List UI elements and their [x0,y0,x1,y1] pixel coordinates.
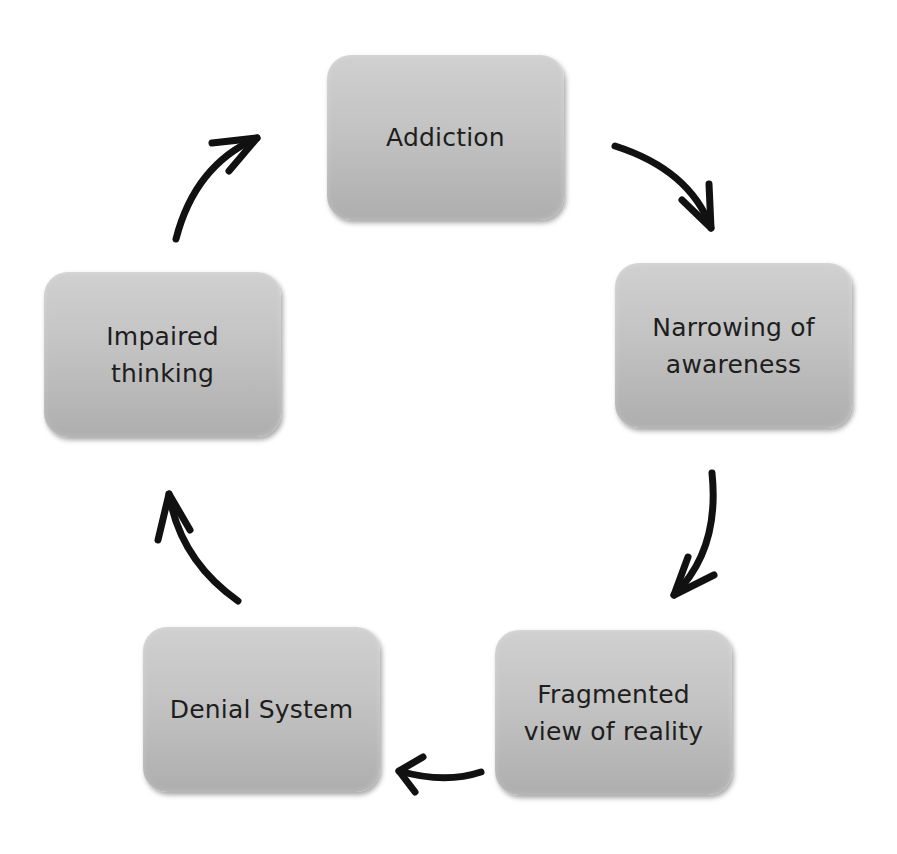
node-label: Impaired thinking [106,318,218,392]
addiction-cycle-diagram: Addiction Narrowing of awareness Fragmen… [0,0,897,854]
node-label: Denial System [170,691,353,728]
node-impaired-thinking: Impaired thinking [44,272,281,437]
node-label: Narrowing of awareness [652,309,814,383]
curved-arrow-icon [399,757,481,792]
curved-arrow-icon [615,146,711,228]
node-denial-system: Denial System [143,627,380,792]
curved-arrow-icon [674,473,714,595]
node-fragmented-view-of-reality: Fragmented view of reality [495,630,732,795]
node-narrowing-of-awareness: Narrowing of awareness [615,263,852,428]
node-label: Addiction [386,119,505,156]
node-addiction: Addiction [327,55,564,220]
curved-arrow-icon [176,138,257,239]
curved-arrow-icon [158,494,238,601]
node-label: Fragmented view of reality [524,676,703,750]
